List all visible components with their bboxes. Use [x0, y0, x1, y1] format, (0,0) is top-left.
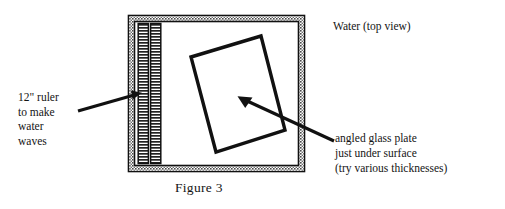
ruler — [138, 24, 161, 164]
glass-plate-label-line-3: (try various thicknesses) — [335, 161, 447, 176]
glass-plate-label-line-1: angled glass plate — [335, 131, 447, 146]
ruler-label-line-4: waves — [18, 134, 59, 149]
ruler-label-line-2: to make — [18, 105, 59, 120]
ruler-label-line-1: 12" ruler — [18, 90, 59, 105]
ruler-strip-right — [151, 24, 161, 164]
ruler-arrow-shaft — [78, 95, 136, 112]
figure-3-diagram: 12" ruler to make water waves Water (top… — [0, 0, 505, 209]
diagram-canvas — [0, 0, 505, 209]
glass-plate-label-line-2: just under surface — [335, 146, 447, 161]
figure-caption: Figure 3 — [175, 180, 223, 196]
ruler-label-line-3: water — [18, 119, 59, 134]
water-label: Water (top view) — [333, 19, 411, 34]
ruler-label: 12" ruler to make water waves — [18, 90, 59, 148]
angled-glass-plate — [191, 36, 285, 152]
water-label-text: Water (top view) — [333, 19, 411, 34]
glass-plate-label: angled glass plate just under surface (t… — [335, 131, 447, 176]
